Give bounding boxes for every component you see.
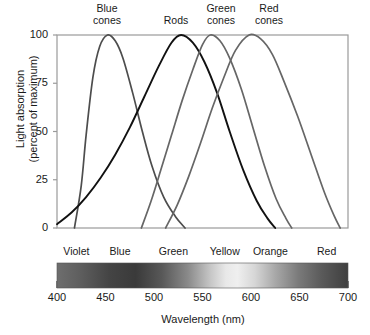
x-tick-650: 650: [283, 291, 317, 303]
x-tick-600: 600: [234, 291, 268, 303]
y-tick-75: 75: [18, 76, 48, 88]
y-tick-50: 50: [18, 125, 48, 137]
x-tick-450: 450: [89, 291, 123, 303]
band-label-red: Red: [297, 245, 357, 257]
y-axis-label: Light absorption (percent of maximum): [14, 24, 40, 194]
curve-label-green-cones: Green cones: [197, 3, 245, 26]
curve-rods: [57, 35, 275, 228]
curve-label-red-cones: Red cones: [248, 3, 290, 26]
x-tick-700: 700: [331, 291, 365, 303]
curve-blue-cones: [74, 35, 185, 228]
plot-canvas: [0, 0, 370, 335]
x-axis-label: Wavelength (nm): [57, 313, 349, 325]
curve-label-rods: Rods: [158, 15, 194, 27]
curve-label-blue-cones: Blue cones: [83, 3, 131, 26]
x-tick-400: 400: [40, 291, 74, 303]
y-tick-100: 100: [18, 28, 48, 40]
curve-red-cones: [166, 34, 341, 228]
plot-frame: [57, 35, 348, 228]
absorption-curves: [57, 34, 340, 228]
y-tick-0: 0: [18, 221, 48, 233]
x-tick-550: 550: [186, 291, 220, 303]
spectrum-bar: [57, 263, 348, 288]
band-label-blue: Blue: [90, 245, 150, 257]
y-tick-25: 25: [18, 173, 48, 185]
band-label-orange: Orange: [240, 245, 300, 257]
x-tick-500: 500: [137, 291, 171, 303]
photoreceptor-absorption-chart: Light absorption (percent of maximum) Wa…: [0, 0, 370, 335]
